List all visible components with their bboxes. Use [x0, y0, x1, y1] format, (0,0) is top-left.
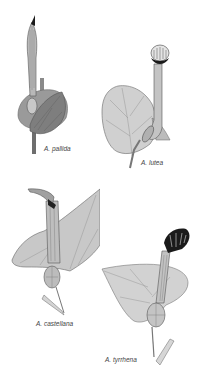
illustration-aristolochia-castellana	[0, 185, 100, 373]
species-label-tyrrhena: A. tyrrhena	[105, 356, 137, 363]
illustration-aristolochia-pallida	[0, 0, 100, 190]
botanical-plate: A. pallida A. lutea A. cas	[0, 0, 200, 373]
species-label-lutea: A. lutea	[141, 159, 163, 166]
illustration-aristolochia-tyrrhena	[100, 185, 200, 373]
species-label-pallida: A. pallida	[44, 145, 71, 152]
species-label-castellana: A. castellana	[36, 320, 73, 327]
